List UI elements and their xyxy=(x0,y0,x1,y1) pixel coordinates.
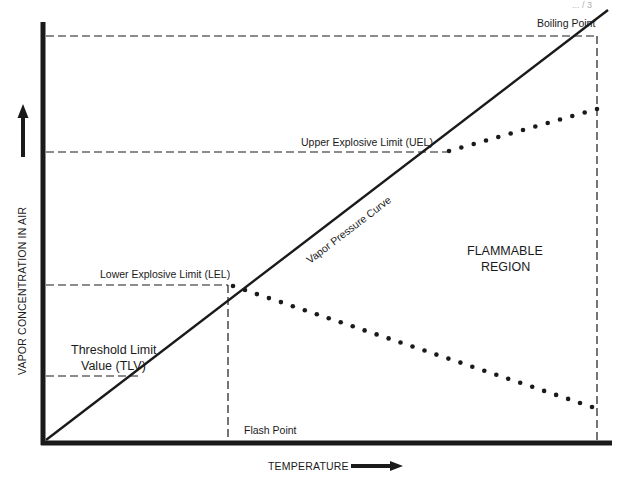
lower-limit-dot xyxy=(434,352,439,357)
upper-limit-dot xyxy=(545,121,550,126)
lower-limit-dot xyxy=(410,344,415,349)
lower-limit-dot xyxy=(279,300,284,305)
lower-limit-dot xyxy=(554,393,559,398)
lower-limit-dot xyxy=(231,284,236,289)
flammable-region-label-line2: REGION xyxy=(481,260,530,274)
flammability-diagram: ... / 3 VAPOR CONCENTRATION IN AIR TEMPE… xyxy=(0,0,628,484)
lower-limit-dot xyxy=(422,348,427,353)
upper-limit-dot xyxy=(459,145,464,150)
lower-limit-dot xyxy=(362,328,367,333)
lower-limit-dot xyxy=(590,405,595,410)
upper-limit-dot xyxy=(570,114,575,119)
lower-limit-dot xyxy=(386,336,391,341)
upper-limit-dot xyxy=(496,135,501,140)
upper-limit-dot xyxy=(582,110,587,115)
lower-limit-dot xyxy=(482,368,487,373)
lower-limit-dot xyxy=(243,288,248,293)
x-axis-label: TEMPERATURE xyxy=(268,460,349,472)
vapor-pressure-curve-label: Vapor Pressure Curve xyxy=(304,193,393,265)
uel-label: Upper Explosive Limit (UEL) xyxy=(301,136,433,148)
lower-limit-dot xyxy=(338,320,343,325)
flammable-region-label-line1: FLAMMABLE xyxy=(467,244,543,258)
arrow-right-icon xyxy=(351,461,403,471)
lower-limit-dot xyxy=(494,372,499,377)
tlv-label-line1: Threshold Limit xyxy=(71,343,157,357)
lower-limit-dot xyxy=(470,364,475,369)
page-header-fragment: ... / 3 xyxy=(572,0,592,10)
lower-limit-dot xyxy=(398,340,403,345)
lower-limit-dot xyxy=(303,308,308,313)
vapor-pressure-curve xyxy=(46,10,608,440)
lower-limit-dot xyxy=(267,296,272,301)
upper-limit-dot xyxy=(447,149,452,154)
upper-limit-dot xyxy=(521,128,526,133)
lower-limit-dot xyxy=(374,332,379,337)
upper-limit-dot xyxy=(508,131,513,136)
lel-label: Lower Explosive Limit (LEL) xyxy=(100,268,230,280)
upper-limit-dot xyxy=(533,124,538,129)
lower-limit-dot xyxy=(506,377,511,382)
upper-limit-dot xyxy=(558,117,563,122)
y-axis-label: VAPOR CONCENTRATION IN AIR xyxy=(16,207,28,375)
upper-limit-dotted-line xyxy=(447,107,600,154)
lower-limit-dot xyxy=(446,356,451,361)
lower-limit-dot xyxy=(315,312,320,317)
tlv-label-line2: Value (TLV) xyxy=(81,359,146,373)
lower-limit-dot xyxy=(326,316,331,321)
lower-limit-dotted-line xyxy=(231,284,595,410)
flash-point-label: Flash Point xyxy=(244,424,297,436)
boiling-point-label: Boiling Point xyxy=(537,17,595,29)
lower-limit-dot xyxy=(291,304,296,309)
upper-limit-dot xyxy=(484,138,489,143)
lower-limit-dot xyxy=(578,401,583,406)
lower-limit-dot xyxy=(542,389,547,394)
lower-limit-dot xyxy=(255,292,260,297)
lower-limit-dot xyxy=(518,381,523,386)
arrow-up-icon xyxy=(18,104,29,157)
lower-limit-dot xyxy=(530,385,535,390)
lower-limit-dot xyxy=(458,360,463,365)
lower-limit-dot xyxy=(350,324,355,329)
upper-limit-dot xyxy=(471,142,476,147)
lower-limit-dot xyxy=(566,397,571,402)
upper-limit-dot xyxy=(595,107,600,112)
